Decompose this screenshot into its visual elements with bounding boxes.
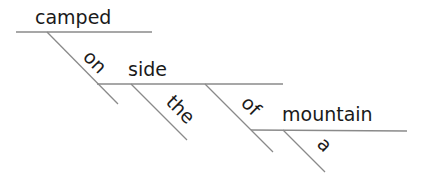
word-camped: camped [35, 6, 111, 28]
word-side: side [128, 58, 167, 80]
word-mountain: mountain [282, 103, 373, 125]
diagonal-of [205, 84, 273, 152]
baseline-mountain [251, 130, 407, 131]
word-a: a [313, 132, 337, 156]
word-the: the [162, 90, 200, 128]
word-on: on [79, 45, 111, 77]
word-of: of [237, 91, 266, 120]
sentence-diagram: camped on side the of mountain a [0, 0, 423, 182]
diagonal-on [47, 32, 118, 104]
